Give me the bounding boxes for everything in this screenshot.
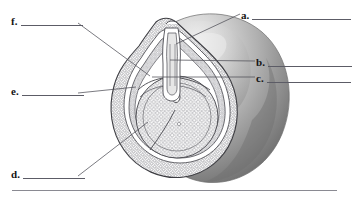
answer-line-d[interactable] (23, 177, 85, 179)
callout-f[interactable]: f. (11, 14, 83, 28)
apex-structures (138, 21, 210, 101)
callout-d[interactable]: d. (11, 167, 85, 181)
answer-line-f[interactable] (21, 24, 83, 26)
leader-line-f (78, 23, 150, 76)
leader-line-d (78, 122, 148, 176)
label-letter-f: f. (11, 16, 18, 28)
cut-section (111, 18, 237, 177)
leader-line-b (170, 60, 255, 61)
label-letter-c: c. (256, 73, 264, 85)
label-letter-d: d. (11, 169, 20, 181)
leader-line-e (78, 87, 136, 93)
answer-line-c[interactable] (267, 81, 351, 83)
answer-line-b[interactable] (268, 65, 352, 67)
label-letter-b: b. (256, 57, 265, 69)
outer-body-3d (146, 14, 289, 183)
callout-c[interactable]: c. (256, 71, 351, 85)
callout-b[interactable]: b. (256, 55, 352, 69)
leader-lines (78, 14, 255, 176)
label-letter-a: a. (241, 10, 249, 22)
callout-a[interactable]: a. (241, 8, 351, 22)
callout-e[interactable]: e. (11, 84, 84, 98)
answer-line-e[interactable] (22, 94, 84, 96)
leader-line-a (176, 14, 240, 44)
bottom-rule (12, 190, 337, 191)
label-letter-e: e. (11, 86, 19, 98)
answer-line-a[interactable] (252, 18, 351, 20)
